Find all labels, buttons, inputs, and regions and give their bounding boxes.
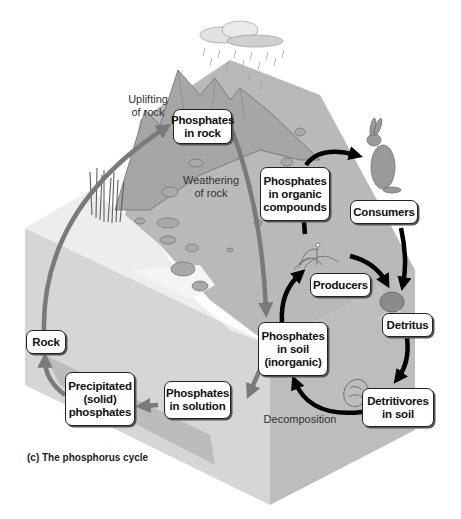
arrow-organic-to-producers (304, 222, 305, 234)
label-decomposition: Decomposition (260, 413, 340, 426)
node-detritivores-in-soil: Detritivores in soil (362, 388, 434, 427)
node-phosphates-in-soil: Phosphates in soil (inorganic) (258, 322, 328, 376)
node-consumers: Consumers (350, 200, 418, 224)
rain-cloud-icon (200, 21, 283, 47)
label-weathering-of-rock: Weathering of rock (178, 174, 244, 200)
label-uplifting-of-rock: Uplifting of rock (118, 93, 178, 119)
phosphorus-cycle-diagram (0, 0, 461, 519)
node-precipitated-phosphates: Precipitated (solid) phosphates (65, 372, 135, 426)
figure-caption: (c) The phosphorus cycle (27, 452, 148, 463)
rabbit-icon (367, 118, 401, 193)
node-detritus: Detritus (382, 313, 433, 337)
node-phosphates-in-organic-compounds: Phosphates in organic compounds (260, 167, 330, 221)
node-phosphates-in-rock: Phosphates in rock (173, 109, 232, 144)
node-phosphates-in-solution: Phosphates in solution (164, 381, 231, 419)
arrow-solution-to-precipitated (143, 405, 158, 406)
node-rock: Rock (26, 330, 66, 354)
node-producers: Producers (310, 273, 371, 297)
